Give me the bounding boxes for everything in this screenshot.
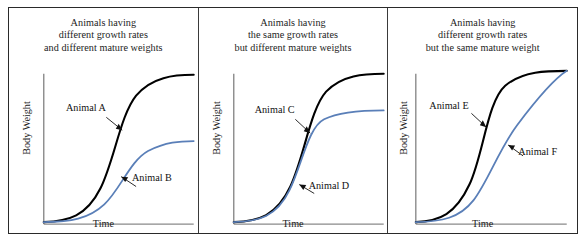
panel-1-title: Animals having different growth rates an… [9,17,198,54]
panel-1-label-animal-b: Animal B [132,172,172,183]
panel-2-title: Animals having the same growth rates but… [199,17,388,54]
panel-2-curve-animal-c [233,74,383,222]
panel-2-title-line-2: the same growth rates [199,29,388,41]
chart-panel-1: Animals having different growth rates an… [9,8,199,233]
panel-2-plot-area [199,58,388,233]
panel-3-title-line-1: Animals having [388,17,577,29]
chart-panel-3: Animals having different growth rates bu… [388,8,577,233]
panel-1-x-axis-label: Time [9,218,198,229]
figure-frame: Animals having different growth rates an… [8,7,578,234]
panel-1-title-line-1: Animals having [9,17,198,29]
panel-1-title-line-3: and different mature weights [9,42,198,54]
panel-2-label-animal-c: Animal C [255,104,295,115]
panel-3-title-line-3: but the same mature weight [388,42,577,54]
panel-2-title-line-3: but different mature weights [199,42,388,54]
panel-1-label-animal-a: Animal A [66,102,106,113]
panel-row: Animals having different growth rates an… [9,8,577,233]
panel-1-plot-area [9,58,198,233]
panel-1-curve-animal-a [44,75,194,222]
panel-1-title-line-2: different growth rates [9,29,198,41]
panel-2-arrowhead-animal-d [299,185,306,190]
panel-3-title-line-2: different growth rates [388,29,577,41]
chart-panel-2: Animals having the same growth rates but… [199,8,389,233]
panel-3-label-animal-e: Animal E [429,100,468,111]
panel-3-label-animal-f: Animal F [518,146,557,157]
panel-2-label-animal-d: Animal D [309,180,349,191]
panel-3-x-axis-label: Time [388,218,577,229]
panel-2-x-axis-label: Time [199,218,388,229]
panel-2-title-line-1: Animals having [199,17,388,29]
panel-3-arrowhead-animal-e [480,120,486,127]
panel-3-title: Animals having different growth rates bu… [388,17,577,54]
